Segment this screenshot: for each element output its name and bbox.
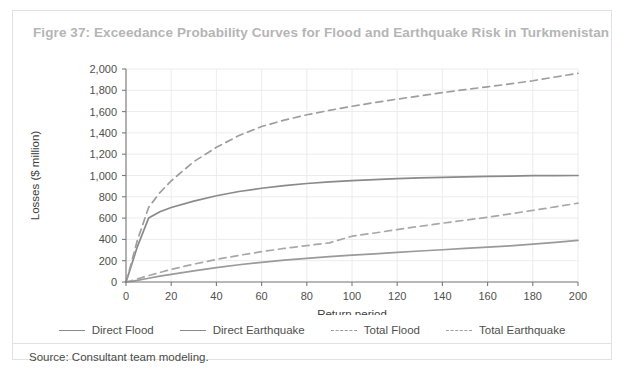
- legend-swatch-icon: [59, 330, 85, 331]
- x-tick-label: 100: [343, 290, 361, 302]
- y-tick-label: 1,000: [89, 170, 117, 182]
- legend-swatch-icon: [446, 330, 472, 331]
- source-note: Source: Consultant team modeling.: [29, 351, 209, 363]
- y-axis-title: Losses ($ million): [29, 131, 41, 221]
- y-tick-label: 1,200: [89, 148, 117, 160]
- chart-legend: Direct Flood Direct Earthquake Total Flo…: [13, 319, 611, 341]
- figure-card: Figre 37: Exceedance Probability Curves …: [12, 10, 612, 360]
- y-tick-label: 400: [99, 233, 117, 245]
- legend-label: Direct Earthquake: [213, 324, 305, 336]
- y-tick-label: 0: [111, 276, 117, 288]
- x-tick-label: 20: [165, 290, 177, 302]
- source-divider: [13, 343, 611, 344]
- x-axis-title: Return period: [317, 308, 387, 315]
- y-tick-label: 200: [99, 255, 117, 267]
- x-tick-label: 40: [210, 290, 222, 302]
- x-tick-label: 160: [478, 290, 496, 302]
- x-tick-label: 200: [569, 290, 587, 302]
- chart-plot-area: 02004006008001,0001,2001,4001,6001,8002,…: [13, 47, 611, 315]
- legend-label: Total Earthquake: [479, 324, 565, 336]
- x-tick-label: 120: [388, 290, 406, 302]
- y-tick-label: 800: [99, 191, 117, 203]
- legend-swatch-icon: [331, 330, 357, 331]
- x-tick-label: 80: [301, 290, 313, 302]
- legend-swatch-icon: [180, 330, 206, 331]
- y-tick-label: 600: [99, 212, 117, 224]
- page-title: Figre 37: Exceedance Probability Curves …: [33, 25, 599, 40]
- y-tick-label: 2,000: [89, 63, 117, 75]
- y-tick-label: 1,800: [89, 84, 117, 96]
- legend-label: Direct Flood: [92, 324, 154, 336]
- x-tick-label: 180: [524, 290, 542, 302]
- x-tick-label: 140: [433, 290, 451, 302]
- legend-item-total-earthquake[interactable]: Total Earthquake: [446, 324, 565, 336]
- y-tick-label: 1,600: [89, 106, 117, 118]
- exceedance-probability-chart: 02004006008001,0001,2001,4001,6001,8002,…: [13, 47, 611, 315]
- legend-item-direct-earthquake[interactable]: Direct Earthquake: [180, 324, 305, 336]
- legend-item-total-flood[interactable]: Total Flood: [331, 324, 420, 336]
- y-tick-label: 1,400: [89, 127, 117, 139]
- legend-label: Total Flood: [364, 324, 420, 336]
- legend-item-direct-flood[interactable]: Direct Flood: [59, 324, 154, 336]
- x-tick-label: 60: [255, 290, 267, 302]
- x-tick-label: 0: [123, 290, 129, 302]
